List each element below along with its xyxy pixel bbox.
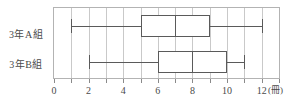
whisker-cap-max-b — [244, 55, 245, 69]
whisker-lower-a — [71, 26, 140, 27]
boxplot-series-b — [54, 44, 279, 80]
median-a — [175, 15, 176, 37]
tick-label-0: 0 — [52, 84, 57, 97]
boxplot-figure: 3年A組 3年B組 024681012 (冊) — [0, 0, 297, 103]
tick-label-4: 4 — [121, 84, 126, 97]
x-axis-unit-label: (冊) — [268, 84, 283, 97]
tick-label-12: 12 — [257, 84, 267, 97]
whisker-cap-max-a — [262, 19, 263, 33]
tick-mark-4 — [123, 79, 124, 83]
tick-label-10: 10 — [222, 84, 232, 97]
tick-label-6: 6 — [155, 84, 160, 97]
tick-mark-5 — [141, 79, 142, 83]
tick-mark-13 — [279, 79, 280, 83]
category-label-a: 3年A組 — [0, 29, 52, 40]
tick-mark-2 — [89, 79, 90, 83]
tick-mark-6 — [158, 79, 159, 83]
tick-mark-11 — [244, 79, 245, 83]
whisker-upper-a — [210, 26, 262, 27]
whisker-upper-b — [227, 62, 244, 63]
tick-label-2: 2 — [86, 84, 91, 97]
tick-mark-1 — [71, 79, 72, 83]
median-b — [192, 51, 193, 73]
tick-mark-10 — [227, 79, 228, 83]
category-label-b: 3年B組 — [0, 59, 52, 70]
whisker-lower-b — [89, 62, 158, 63]
tick-mark-0 — [54, 79, 55, 83]
plot-surface — [54, 8, 279, 78]
tick-mark-3 — [106, 79, 107, 83]
x-axis-tick-labels: 024681012 — [53, 84, 280, 100]
tick-mark-8 — [192, 79, 193, 83]
whisker-cap-min-b — [89, 55, 90, 69]
tick-mark-9 — [210, 79, 211, 83]
whisker-cap-min-a — [71, 19, 72, 33]
tick-mark-7 — [175, 79, 176, 83]
tick-mark-12 — [262, 79, 263, 83]
plot-frame — [53, 7, 280, 79]
boxplot-series-a — [54, 8, 279, 44]
tick-label-8: 8 — [190, 84, 195, 97]
